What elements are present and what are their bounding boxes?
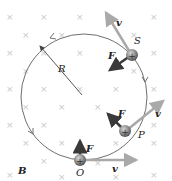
svg-text:×: × xyxy=(6,120,14,130)
particle-label-P: P xyxy=(137,129,145,140)
svg-text:×: × xyxy=(112,138,120,148)
svg-text:×: × xyxy=(22,30,30,40)
path-direction-arrow-top xyxy=(50,33,56,39)
svg-text:×: × xyxy=(76,12,84,22)
charge-sign-O: + xyxy=(76,156,84,166)
velocity-label-S: v xyxy=(116,17,122,28)
svg-text:×: × xyxy=(6,12,14,22)
velocity-label-P: v xyxy=(155,108,161,119)
svg-text:×: × xyxy=(94,102,102,112)
charge-sign-S: + xyxy=(128,51,136,61)
svg-text:×: × xyxy=(40,12,48,22)
particle-O: + O v F xyxy=(74,141,136,178)
force-label-P: F xyxy=(117,108,126,119)
particle-label-O: O xyxy=(76,167,84,178)
force-label-S: F xyxy=(107,50,116,61)
radius-label: R xyxy=(57,63,66,74)
svg-text:×: × xyxy=(150,84,158,94)
svg-text:×: × xyxy=(58,172,66,181)
particle-label-S: S xyxy=(134,35,141,46)
svg-text:×: × xyxy=(150,138,158,148)
force-label-O: F xyxy=(85,143,94,154)
svg-text:×: × xyxy=(150,12,158,22)
svg-text:×: × xyxy=(6,170,14,180)
svg-text:×: × xyxy=(130,66,138,76)
svg-text:×: × xyxy=(150,170,158,180)
svg-text:×: × xyxy=(58,138,66,148)
svg-text:×: × xyxy=(22,138,30,148)
svg-text:×: × xyxy=(40,156,48,166)
charge-sign-P: + xyxy=(121,127,129,137)
svg-text:×: × xyxy=(40,84,48,94)
svg-text:×: × xyxy=(40,120,48,130)
field-label-B: B xyxy=(17,165,26,176)
svg-text:×: × xyxy=(150,48,158,58)
svg-text:×: × xyxy=(6,48,14,58)
svg-text:×: × xyxy=(76,48,84,58)
svg-text:×: × xyxy=(150,120,158,130)
magnetic-field-diagram: × × × × × × × × × × × × × × × × × × × × … xyxy=(0,0,172,181)
svg-text:×: × xyxy=(6,84,14,94)
svg-text:×: × xyxy=(58,102,66,112)
svg-text:×: × xyxy=(112,84,120,94)
velocity-label-O: v xyxy=(112,163,118,174)
svg-text:×: × xyxy=(22,102,30,112)
